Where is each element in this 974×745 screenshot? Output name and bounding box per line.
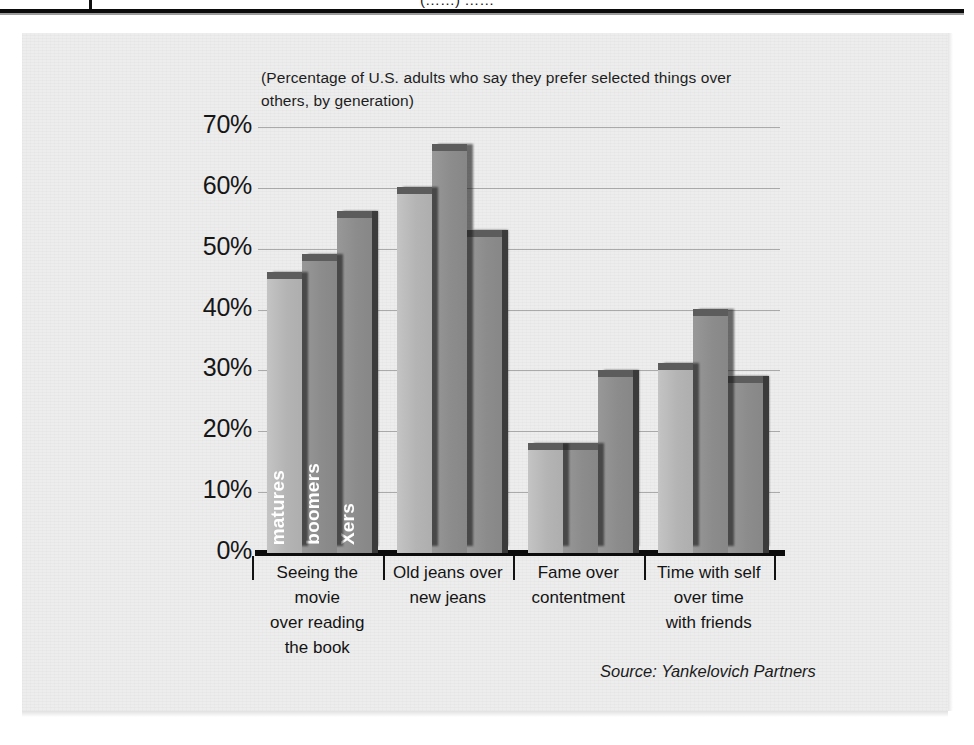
bar-group bbox=[397, 120, 502, 553]
bar-top-face bbox=[337, 211, 372, 218]
source-credit: Source: Yankelovich Partners bbox=[600, 662, 816, 681]
y-axis-tick-label: 60% bbox=[203, 171, 252, 200]
bar-matures: matures bbox=[267, 279, 302, 553]
category-label: Old jeans overnew jeans bbox=[383, 560, 514, 610]
bar-top-face bbox=[267, 272, 302, 279]
y-axis-tick-label: 10% bbox=[203, 475, 252, 504]
category-label-line: Time with self bbox=[644, 560, 775, 585]
series-label-matures: matures bbox=[267, 470, 302, 545]
bar-face bbox=[397, 194, 432, 553]
bar-side-face bbox=[763, 376, 769, 553]
category-label-line: new jeans bbox=[383, 585, 514, 610]
category-label: Seeing the movieover readingthe book bbox=[252, 560, 383, 660]
bar-side-face bbox=[372, 211, 378, 553]
bar-top-face bbox=[302, 254, 337, 261]
panel-shadow-right bbox=[948, 33, 953, 711]
bar-side-face bbox=[502, 230, 508, 553]
page-top-text-fragment: (……) …… bbox=[420, 0, 680, 8]
bar-side-face bbox=[633, 370, 639, 553]
y-axis-tick-label: 30% bbox=[203, 353, 252, 382]
screenshot-page: (……) …… (Percentage of U.S. adults who s… bbox=[0, 0, 974, 745]
category-label-line: the book bbox=[252, 635, 383, 660]
bar-matures bbox=[397, 194, 432, 553]
category-label-line: Seeing the movie bbox=[252, 560, 383, 610]
x-axis-tick bbox=[774, 556, 776, 580]
panel-shadow-bottom bbox=[22, 711, 948, 717]
y-axis-tick-label: 0% bbox=[216, 536, 252, 565]
bar-face bbox=[528, 450, 563, 553]
bar-top-face bbox=[432, 144, 467, 151]
page-top-rule-shadow bbox=[0, 13, 974, 15]
category-label-line: with friends bbox=[644, 610, 775, 635]
category-label-line: Old jeans over bbox=[383, 560, 514, 585]
bar-face bbox=[658, 370, 693, 553]
y-axis-tick-label: 40% bbox=[203, 293, 252, 322]
category-label: Time with selfover timewith friends bbox=[644, 560, 775, 635]
category-label: Fame overcontentment bbox=[513, 560, 644, 610]
category-label-line: Fame over bbox=[513, 560, 644, 585]
bar-top-face bbox=[598, 370, 633, 377]
scan-edge bbox=[964, 0, 974, 745]
bar-group bbox=[658, 120, 763, 553]
bar-matures bbox=[658, 370, 693, 553]
category-label-line: over time bbox=[644, 585, 775, 610]
bar-top-face bbox=[528, 443, 563, 450]
category-label-line: over reading bbox=[252, 610, 383, 635]
bar-top-face bbox=[397, 187, 432, 194]
y-axis-tick-label: 50% bbox=[203, 232, 252, 261]
y-axis-labels: 70%60%50%40%30%20%10%0% bbox=[188, 120, 252, 560]
y-axis-tick-label: 70% bbox=[203, 110, 252, 139]
category-label-line: contentment bbox=[513, 585, 644, 610]
plot-area: maturesboomersXers bbox=[258, 120, 780, 553]
bar-top-face bbox=[658, 363, 693, 370]
bar-group: maturesboomersXers bbox=[267, 120, 372, 553]
y-axis-tick-label: 20% bbox=[203, 414, 252, 443]
bar-top-face bbox=[693, 309, 728, 316]
bar-group bbox=[528, 120, 633, 553]
chart-subtitle: (Percentage of U.S. adults who say they … bbox=[261, 66, 769, 112]
bar-matures bbox=[528, 450, 563, 553]
